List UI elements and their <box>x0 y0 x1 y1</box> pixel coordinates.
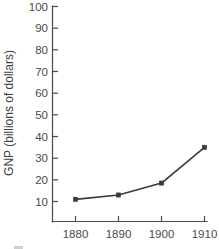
y-tick-label-70: 70 <box>35 66 48 78</box>
data-point-1900 <box>159 181 163 185</box>
y-tick-label-50: 50 <box>35 109 48 121</box>
y-axis-title: GNP (billions of dollars) <box>2 50 16 176</box>
data-point-1910 <box>202 145 206 149</box>
y-tick-label-10: 10 <box>35 196 48 208</box>
y-tick-label-20: 20 <box>35 174 48 186</box>
chart-canvas: GNP (billions of dollars) 100 90 80 70 6… <box>0 0 219 249</box>
x-tick-label-1900: 1900 <box>149 228 175 240</box>
x-tick-label-1880: 1880 <box>63 228 89 240</box>
y-tick-label-60: 60 <box>35 87 48 99</box>
x-tick-label-1910: 1910 <box>192 228 218 240</box>
data-point-1880 <box>73 197 77 201</box>
y-tick-label-90: 90 <box>35 22 48 34</box>
data-point-1890 <box>116 193 120 197</box>
y-tick-label-100: 100 <box>29 1 48 13</box>
y-tick-label-80: 80 <box>35 44 48 56</box>
chart-background <box>0 0 219 249</box>
y-tick-label-40: 40 <box>35 131 48 143</box>
gnp-line-chart: GNP (billions of dollars) 100 90 80 70 6… <box>0 0 219 249</box>
y-tick-label-30: 30 <box>35 152 48 164</box>
x-tick-label-1890: 1890 <box>106 228 132 240</box>
